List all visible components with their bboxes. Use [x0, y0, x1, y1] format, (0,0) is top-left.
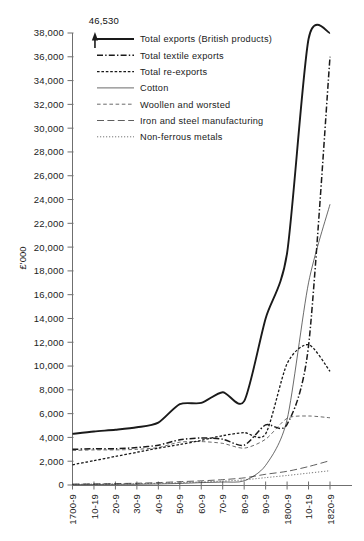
x-axis-ticks: 1700-910-1920-930-940-950-960-970-980-99… [67, 482, 336, 525]
legend-item-label: Non-ferrous metals [140, 132, 223, 142]
chart-annotations: 46,530 [89, 15, 119, 48]
y-tick-label: 36,000 [34, 51, 64, 62]
x-tick-label: 80-9 [239, 494, 250, 514]
y-tick-label: 6,000 [39, 408, 64, 419]
legend-item-label: Total re-exports [140, 67, 207, 77]
y-axis-ticks: 02,0004,0006,0008,00010,00012,00014,0001… [34, 27, 74, 490]
x-tick-label: 10-19 [303, 494, 314, 519]
x-tick-label: 70-9 [217, 494, 228, 514]
legend-item-label: Iron and steel manufacturing [140, 116, 263, 126]
y-tick-label: 28,000 [34, 146, 64, 157]
y-tick-label: 2,000 [39, 456, 64, 467]
x-tick-label: 1820-9 [325, 494, 336, 525]
y-tick-label: 32,000 [34, 99, 64, 110]
annotation-value-label: 46,530 [89, 15, 119, 26]
x-tick-label: 1700-9 [67, 494, 78, 525]
legend-item-label: Total textile exports [140, 51, 224, 61]
y-tick-label: 24,000 [34, 194, 64, 205]
y-tick-label: 22,000 [34, 218, 64, 229]
chart-canvas: 02,0004,0006,0008,00010,00012,00014,0001… [0, 0, 364, 541]
y-tick-label: 30,000 [34, 123, 64, 134]
y-tick-label: 0 [59, 479, 64, 490]
series-line [73, 25, 331, 434]
y-tick-label: 4,000 [39, 432, 64, 443]
y-tick-label: 38,000 [34, 27, 64, 38]
y-tick-label: 10,000 [34, 360, 64, 371]
series-line [73, 345, 331, 465]
y-tick-label: 20,000 [34, 242, 64, 253]
x-tick-label: 1800-9 [282, 494, 293, 525]
legend-item-label: Total exports (British products) [140, 34, 272, 44]
chart-legend: Total exports (British products)Total te… [97, 34, 272, 142]
chart-figure: 02,0004,0006,0008,00010,00012,00014,0001… [0, 0, 364, 541]
y-tick-label: 26,000 [34, 170, 64, 181]
y-tick-label: 16,000 [34, 289, 64, 300]
y-tick-label: 18,000 [34, 265, 64, 276]
x-tick-label: 50-9 [174, 494, 185, 514]
annotation-arrowhead [92, 32, 98, 40]
series-line [73, 204, 331, 484]
x-tick-label: 30-9 [131, 494, 142, 514]
y-tick-label: 8,000 [39, 384, 64, 395]
y-tick-label: 12,000 [34, 337, 64, 348]
y-axis-title: £'000 [17, 247, 28, 270]
x-tick-label: 90-9 [260, 494, 271, 514]
x-tick-label: 20-9 [110, 494, 121, 514]
y-tick-label: 34,000 [34, 75, 64, 86]
x-tick-label: 60-9 [196, 494, 207, 514]
y-tick-label: 14,000 [34, 313, 64, 324]
y-axis-title-text: £'000 [17, 247, 28, 270]
series-line [73, 416, 331, 451]
legend-item-label: Woollen and worsted [140, 100, 230, 110]
x-tick-label: 40-9 [153, 494, 164, 514]
x-tick-label: 10-19 [89, 494, 100, 519]
series-line [73, 461, 331, 484]
legend-item-label: Cotton [140, 83, 169, 93]
data-series-group [73, 25, 331, 485]
